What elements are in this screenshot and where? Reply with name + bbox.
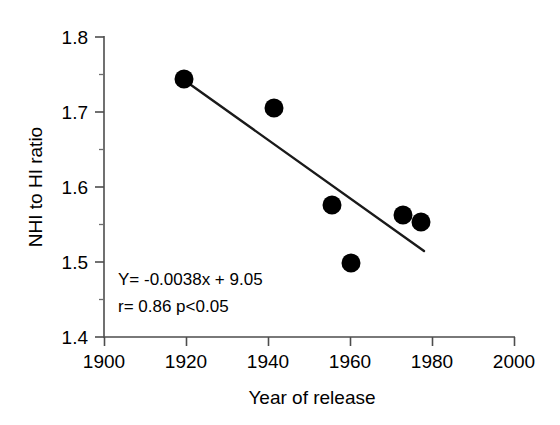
regression-trendline (184, 80, 424, 251)
data-point (323, 196, 342, 215)
y-tick-label-1.7: 1.7 (62, 102, 88, 123)
x-tick-label-1900: 1900 (83, 351, 125, 372)
correlation-stats-text: r= 0.86 p<0.05 (118, 297, 229, 316)
data-point (394, 206, 413, 225)
x-tick-label-1940: 1940 (247, 351, 289, 372)
data-point (342, 254, 361, 273)
regression-equation-text: Y= -0.0038x + 9.05 (118, 270, 263, 289)
data-point (412, 213, 431, 232)
annotation-block: Y= -0.0038x + 9.05 r= 0.86 p<0.05 (118, 270, 263, 316)
chart-figure: 1.8 1.7 1.6 1.5 1.4 NHI to HI ratio 1900… (0, 0, 560, 425)
y-axis: 1.8 1.7 1.6 1.5 1.4 NHI to HI ratio (25, 27, 104, 348)
scatter-plot-svg: 1.8 1.7 1.6 1.5 1.4 NHI to HI ratio 1900… (0, 0, 560, 425)
x-tick-label-1920: 1920 (165, 351, 207, 372)
x-tick-label-1960: 1960 (329, 351, 371, 372)
x-axis: 1900 1920 1940 1960 1980 2000 Year of re… (83, 337, 535, 408)
y-tick-label-1.4: 1.4 (62, 327, 89, 348)
x-tick-label-1980: 1980 (411, 351, 453, 372)
data-point (265, 99, 284, 118)
x-axis-title: Year of release (248, 387, 375, 408)
y-tick-label-1.5: 1.5 (62, 252, 88, 273)
y-axis-title: NHI to HI ratio (25, 127, 46, 247)
x-tick-label-2000: 2000 (493, 351, 535, 372)
data-point (175, 70, 194, 89)
y-tick-label-1.8: 1.8 (62, 27, 88, 48)
y-tick-label-1.6: 1.6 (62, 177, 88, 198)
